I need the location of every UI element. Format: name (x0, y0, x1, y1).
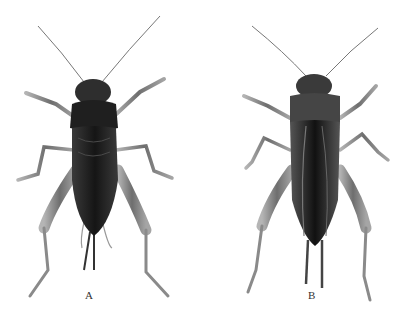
cricket-a-illustration (0, 0, 200, 320)
specimen-a (0, 0, 200, 320)
cricket-b-illustration (200, 0, 399, 320)
specimen-b (200, 0, 399, 320)
panel-label-b: B (308, 289, 315, 301)
figure: A B (0, 0, 399, 320)
panel-label-a: A (85, 289, 93, 301)
